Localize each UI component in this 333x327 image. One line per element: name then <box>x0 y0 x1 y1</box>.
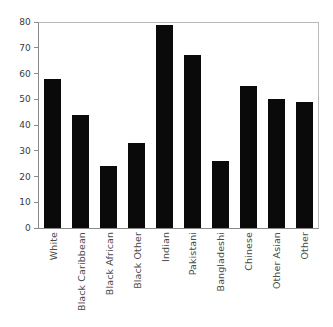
x-axis-label-text: Other <box>299 232 310 259</box>
x-axis-labels: WhiteBlack CaribbeanBlack AfricanBlack O… <box>39 232 318 327</box>
bar-chart: 80706050403020100 WhiteBlack CaribbeanBl… <box>0 0 333 327</box>
y-axis-tick-mark <box>34 73 38 74</box>
x-axis-label-text: Other Asian <box>271 232 282 289</box>
bar[interactable] <box>156 22 173 228</box>
bar-rect <box>268 99 285 228</box>
bar-rect <box>100 166 117 228</box>
bar-rect <box>72 115 89 228</box>
y-axis-tick: 50 <box>19 93 38 105</box>
x-axis-label-text: White <box>47 232 58 260</box>
y-axis-tick: 60 <box>19 68 38 80</box>
x-axis-label: Pakistani <box>179 232 207 327</box>
bar-rect <box>240 86 257 228</box>
y-axis-tick: 70 <box>19 42 38 54</box>
y-axis-tick-label: 60 <box>19 68 34 80</box>
y-axis-tick: 10 <box>19 196 38 208</box>
x-axis-label-text: Black African <box>103 232 114 295</box>
x-axis-label: Black African <box>95 232 123 327</box>
bar[interactable] <box>128 22 145 228</box>
x-axis-label: White <box>39 232 67 327</box>
y-axis-tick: 20 <box>19 171 38 183</box>
y-axis-tick: 40 <box>19 119 38 131</box>
y-axis-tick-label: 70 <box>19 42 34 54</box>
bar-rect <box>184 55 201 228</box>
y-axis-tick-mark <box>34 22 38 23</box>
bar[interactable] <box>184 22 201 228</box>
x-axis-label: Indian <box>151 232 179 327</box>
y-axis-tick-label: 50 <box>19 93 34 105</box>
x-axis-label-text: Pakistani <box>187 232 198 275</box>
bar[interactable] <box>72 22 89 228</box>
y-axis-tick-mark <box>34 125 38 126</box>
bar[interactable] <box>212 22 229 228</box>
y-axis-tick-label: 30 <box>19 145 34 157</box>
y-axis-tick: 30 <box>19 145 38 157</box>
bar-rect <box>44 79 61 228</box>
y-axis-tick-mark <box>34 228 38 229</box>
y-axis-tick-mark <box>34 99 38 100</box>
y-axis-tick-label: 80 <box>19 16 34 28</box>
y-axis-tick-label: 0 <box>25 222 34 234</box>
y-axis-tick: 80 <box>19 16 38 28</box>
x-axis-label: Other Asian <box>262 232 290 327</box>
bars-container <box>39 22 318 228</box>
bar[interactable] <box>100 22 117 228</box>
x-axis-label: Other <box>290 232 318 327</box>
y-axis: 80706050403020100 <box>0 0 38 327</box>
y-axis-tick-mark <box>34 202 38 203</box>
x-axis-label-text: Black Caribbean <box>75 232 86 311</box>
bar[interactable] <box>296 22 313 228</box>
bar-rect <box>128 143 145 228</box>
y-axis-tick-mark <box>34 150 38 151</box>
bar-rect <box>212 161 229 228</box>
x-axis-label-text: Black Other <box>131 232 142 289</box>
y-axis-tick-label: 40 <box>19 119 34 131</box>
x-axis-label: Black Caribbean <box>67 232 95 327</box>
x-axis-label: Chinese <box>234 232 262 327</box>
bar[interactable] <box>268 22 285 228</box>
y-axis-tick-mark <box>34 176 38 177</box>
y-axis-tick: 0 <box>25 222 38 234</box>
bar[interactable] <box>44 22 61 228</box>
x-axis-label-text: Chinese <box>243 232 254 271</box>
bar-rect <box>156 25 173 228</box>
y-axis-tick-mark <box>34 47 38 48</box>
y-axis-tick-label: 10 <box>19 196 34 208</box>
x-axis-label-text: Bangladeshi <box>215 232 226 291</box>
y-axis-tick-label: 20 <box>19 171 34 183</box>
x-axis-label: Black Other <box>123 232 151 327</box>
x-axis-label: Bangladeshi <box>206 232 234 327</box>
bar-rect <box>296 102 313 228</box>
x-axis-label-text: Indian <box>159 232 170 262</box>
bar[interactable] <box>240 22 257 228</box>
